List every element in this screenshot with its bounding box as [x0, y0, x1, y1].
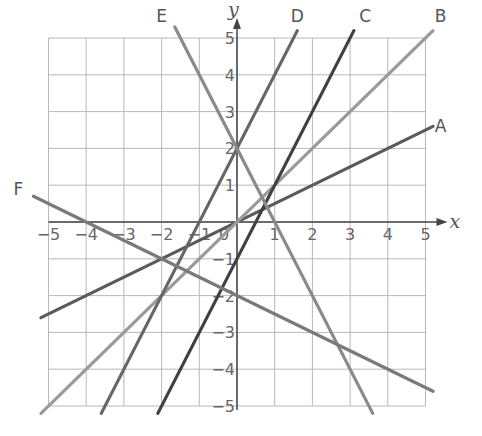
x-axis-label: x — [450, 210, 461, 232]
coordinate-plane-figure: xy−5−4−3−2−101234554321−1−2−3−4−5ABCDEF — [0, 0, 482, 436]
x-tick-label: −5 — [37, 225, 61, 244]
y-tick-label: −4 — [211, 360, 235, 379]
y-axis-label: y — [227, 0, 239, 20]
y-tick-label: −3 — [211, 323, 235, 342]
x-axis-arrow-icon — [437, 218, 448, 226]
line-label-c: C — [359, 6, 371, 26]
x-tick-label: 4 — [383, 225, 393, 244]
coordinate-plane: xy−5−4−3−2−101234554321−1−2−3−4−5ABCDEF — [0, 0, 482, 436]
y-tick-label: −5 — [211, 397, 235, 416]
line-label-d: D — [291, 6, 304, 26]
y-tick-label: 4 — [225, 66, 235, 85]
line-label-b: B — [435, 6, 447, 26]
x-tick-label: −4 — [74, 225, 98, 244]
x-tick-label: 5 — [420, 225, 430, 244]
y-tick-label: 3 — [225, 103, 235, 122]
x-tick-label: 3 — [345, 225, 355, 244]
x-tick-label: 2 — [307, 225, 317, 244]
y-tick-label: 1 — [225, 176, 235, 195]
y-tick-label: 5 — [225, 29, 235, 48]
line-label-a: A — [435, 116, 447, 136]
line-label-f: F — [13, 179, 23, 199]
line-label-e: E — [156, 6, 167, 26]
x-tick-label: −2 — [150, 225, 174, 244]
line-e — [175, 27, 373, 413]
y-tick-label: −1 — [211, 250, 235, 269]
